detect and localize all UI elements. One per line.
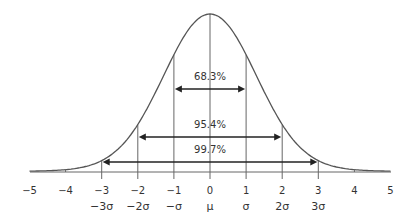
x-tick-label: 2 bbox=[279, 185, 285, 196]
sigma-label: −σ bbox=[166, 200, 182, 213]
x-tick-label: 5 bbox=[387, 185, 393, 196]
interval-label: 95.4% bbox=[194, 119, 226, 130]
x-tick-label: 4 bbox=[351, 185, 357, 196]
x-tick-label: −3 bbox=[94, 185, 109, 196]
arrow-left-icon bbox=[139, 134, 146, 141]
x-tick-labels: −5−4−3−2−1012345 bbox=[22, 185, 394, 196]
normal-distribution-chart: 68.3%95.4%99.7% −5−4−3−2−1012345 −3σ−2σ−… bbox=[0, 0, 411, 220]
sigma-label: 3σ bbox=[311, 200, 325, 213]
x-tick-label: −1 bbox=[167, 185, 182, 196]
interval-label: 99.7% bbox=[194, 144, 226, 155]
sigma-label: −3σ bbox=[90, 200, 113, 213]
x-tick-label: 3 bbox=[315, 185, 321, 196]
arrow-right-icon bbox=[274, 134, 281, 141]
x-tick-label: −2 bbox=[130, 185, 145, 196]
sigma-label: μ bbox=[207, 200, 214, 213]
sigma-labels: −3σ−2σ−σμσ2σ3σ bbox=[90, 200, 325, 213]
interval-label: 68.3% bbox=[194, 71, 226, 82]
arrow-right-icon bbox=[238, 86, 245, 93]
arrow-left-icon bbox=[175, 86, 182, 93]
x-tick-label: 1 bbox=[243, 185, 249, 196]
x-tick-label: 0 bbox=[207, 185, 213, 196]
x-tick-label: −4 bbox=[58, 185, 73, 196]
sigma-label: 2σ bbox=[275, 200, 289, 213]
sigma-label: −2σ bbox=[126, 200, 149, 213]
sigma-label: σ bbox=[243, 200, 250, 213]
x-tick-label: −5 bbox=[22, 185, 37, 196]
